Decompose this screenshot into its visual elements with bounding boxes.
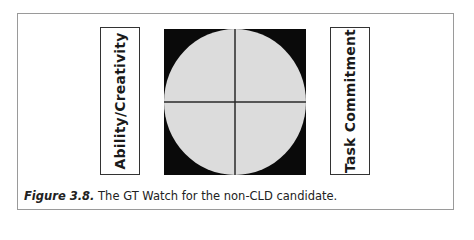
ability-creativity-box: Ability/Creativity bbox=[100, 27, 140, 175]
task-commitment-label: Task Commitment bbox=[342, 29, 358, 173]
caption-text: The GT Watch for the non-CLD candidate. bbox=[94, 189, 337, 203]
ability-creativity-label: Ability/Creativity bbox=[112, 32, 128, 169]
figure-number: Figure 3.8. bbox=[24, 189, 94, 203]
figure-caption: Figure 3.8. The GT Watch for the non-CLD… bbox=[24, 189, 337, 203]
gt-watch bbox=[164, 29, 306, 175]
task-commitment-box: Task Commitment bbox=[330, 27, 370, 175]
gt-watch-graphic bbox=[164, 29, 306, 175]
